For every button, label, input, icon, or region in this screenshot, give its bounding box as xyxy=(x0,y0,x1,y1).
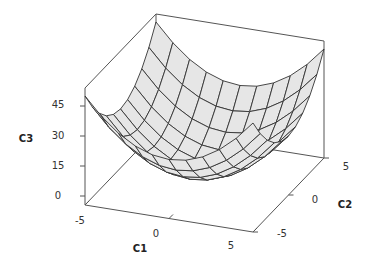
z-axis-title: C3 xyxy=(19,133,33,144)
x-axis-title: C1 xyxy=(133,243,147,254)
tick-mark xyxy=(85,201,89,205)
z-tick-label: 30 xyxy=(52,130,65,141)
x-tick-label: 0 xyxy=(153,228,159,239)
tick-mark xyxy=(169,215,173,219)
x-tick-label: -5 xyxy=(75,215,85,226)
y-tick-label: -5 xyxy=(277,228,287,239)
surface-mesh xyxy=(85,22,324,180)
z-tick-label: 0 xyxy=(55,190,61,201)
x-tick-label: 5 xyxy=(228,240,234,251)
surface-plot: 45 30 15 0 C3 -5 0 5 C1 -5 0 5 C2 xyxy=(0,0,370,266)
z-tick-label: 45 xyxy=(52,99,65,110)
frame-edge xyxy=(156,14,324,41)
z-tick-label: 15 xyxy=(52,160,65,171)
y-axis-title: C2 xyxy=(338,199,352,210)
tick-mark xyxy=(253,228,257,232)
y-tick-label: 5 xyxy=(343,161,349,172)
y-tick-label: 0 xyxy=(312,194,318,205)
